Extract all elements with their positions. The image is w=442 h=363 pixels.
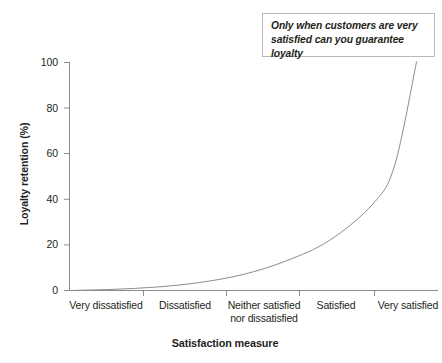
y-tick-label-100: 100 <box>22 56 58 68</box>
annotation-line-1: Only when customers are very <box>271 19 427 33</box>
loyalty-retention-curve <box>70 62 417 291</box>
x-tick-label-line1: Very dissatisfied <box>69 299 142 311</box>
x-tick-label-line2: nor dissatisfied <box>209 312 319 325</box>
x-axis-title: Satisfaction measure <box>70 337 380 349</box>
x-tick-label-line1: Dissatisfied <box>159 299 211 311</box>
x-tick-label-very-satisfied: Very satisfied <box>366 299 442 312</box>
annotation-callout-box: Only when customers are very satisfied c… <box>262 13 435 57</box>
annotation-line-2: satisfied can you guarantee loyalty <box>271 33 427 61</box>
x-tick-label-line1: Neither satisfied <box>228 299 301 311</box>
x-tick-label-line1: Very satisfied <box>378 299 438 311</box>
x-axis-ticks <box>144 291 375 297</box>
x-tick-label-satisfied: Satisfied <box>296 299 376 312</box>
x-tick-label-line1: Satisfied <box>317 299 356 311</box>
y-axis-ticks <box>64 63 70 291</box>
chart-figure: 100 80 60 40 20 0 Very dissatisfied Diss… <box>0 0 442 363</box>
y-tick-label-0: 0 <box>22 284 58 296</box>
y-axis-title: Loyalty retention (%) <box>18 94 30 254</box>
